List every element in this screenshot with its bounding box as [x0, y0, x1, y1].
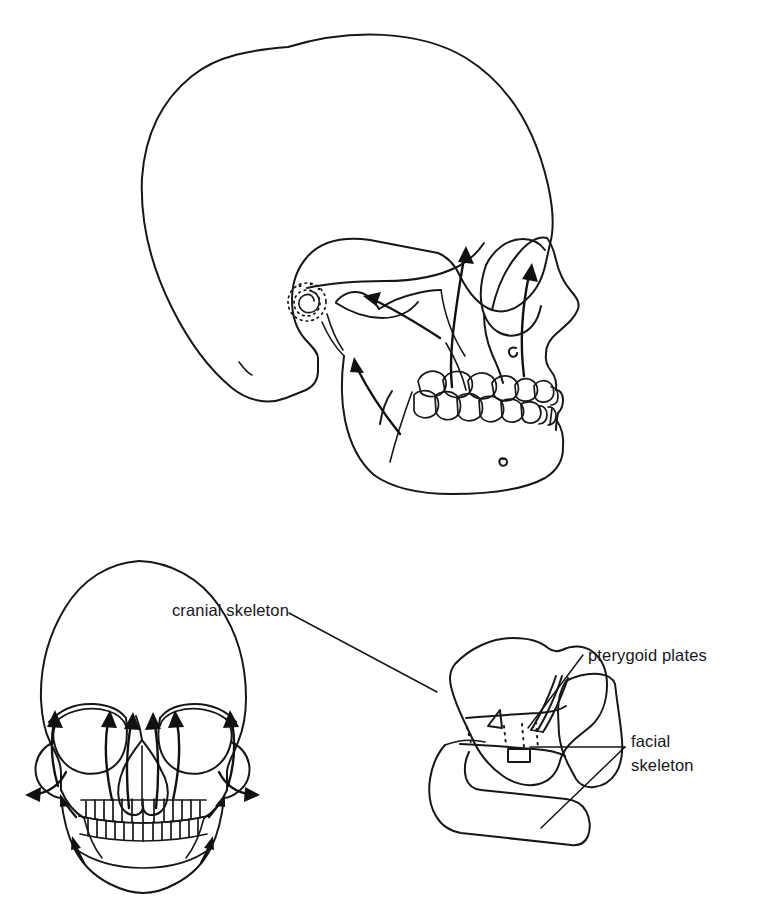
schematic-cranial-block: [450, 638, 607, 785]
maxilla-lateral-border: [484, 314, 503, 383]
pterygoid-plates-leader: [528, 655, 583, 728]
cranial-skeleton-leader: [289, 613, 437, 692]
figure-root: cranial skeleton pterygoid plates facial…: [0, 0, 759, 911]
facial-skeleton-leader-lower: [541, 747, 625, 828]
orbit-left-floor: [59, 709, 126, 726]
frontal-calvaria-outline-left: [41, 561, 139, 790]
schematic-interlock-rect: [508, 749, 530, 762]
zygomatic-arch-upper: [307, 243, 484, 288]
growth-arrow-frontal-zygoma-right-head: [244, 787, 260, 802]
growth-arrow-frontal-zygoma-right: [219, 772, 249, 794]
tympanic-plate: [322, 322, 344, 356]
schematic-facial-block: [558, 674, 622, 787]
growth-arrow-mandible-head: [350, 357, 364, 373]
growth-arrow-maxilla-vertical: [451, 258, 464, 387]
skull-growth-figure: cranial skeleton pterygoid plates facial…: [0, 0, 759, 911]
upper-dental-arch: [418, 371, 558, 405]
orbit-upper-edge: [486, 239, 545, 265]
growth-arrow-nasomaxillary-head: [522, 263, 538, 282]
growth-arrow-frontal-inner-right: [173, 722, 179, 800]
growth-arrow-frontal-zygoma-left-head: [25, 787, 41, 802]
lateral-skull-view: [142, 35, 579, 494]
mandible-chin-frontal: [110, 884, 175, 893]
lateral-growth-arrows: [350, 246, 538, 434]
schematic-notch-triangle: [488, 710, 502, 728]
growth-arrow-frontal-ramus-left-head: [60, 794, 70, 807]
condyle-growth-curve: [446, 343, 466, 390]
occipital-notch: [239, 362, 252, 375]
mandible-chin-front: [557, 421, 563, 448]
mental-foramen-icon: [499, 458, 507, 465]
schematic-pterygoid-plate-inner: [543, 678, 568, 732]
cranial-vault-outline: [142, 35, 553, 402]
growth-arrow-maxilla-vertical-head: [458, 246, 474, 264]
growth-arrow-frontal-inner-right-head: [168, 710, 184, 728]
growth-arrow-frontal-body-left-head: [71, 836, 81, 850]
infraorbital-foramen-icon: [509, 347, 517, 356]
dotted-suture-3: [522, 724, 524, 747]
dotted-suture-2: [504, 726, 506, 745]
growth-arrow-frontal-inner-left: [106, 722, 112, 800]
facial-skeleton-label-line2: skeleton: [631, 756, 694, 774]
growth-arrow-frontal-nasal-right: [155, 724, 158, 808]
schematic-skull-view: cranial skeleton pterygoid plates facial…: [172, 601, 707, 845]
cranial-skeleton-label: cranial skeleton: [172, 601, 289, 619]
pterygoid-plates-label: pterygoid plates: [588, 646, 707, 664]
growth-arrow-maxilla-posterior: [374, 300, 440, 338]
frontal-calvaria-outline: [139, 561, 246, 790]
growth-arrow-frontal-ramus-right-head: [215, 794, 225, 807]
dotted-suture-4: [536, 722, 538, 748]
growth-arrow-mandible: [357, 368, 400, 434]
mandible-lower-border: [374, 448, 563, 494]
orbital-rim-superior: [492, 238, 547, 310]
growth-arrow-nasomaxillary: [522, 275, 529, 376]
mandible-ramus-posterior: [342, 356, 374, 475]
nasal-bridge-profile: [546, 238, 579, 353]
growth-arrow-frontal-body-right-head: [204, 836, 214, 850]
facial-skeleton-label-line1: facial: [631, 732, 670, 750]
